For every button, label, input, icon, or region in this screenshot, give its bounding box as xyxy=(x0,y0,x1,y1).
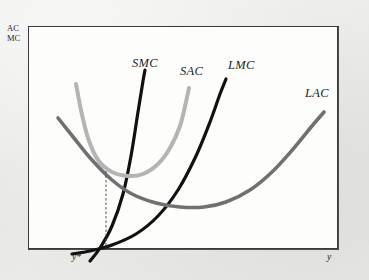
horizontal-axis-label: y xyxy=(327,252,331,262)
cost-curves-plot xyxy=(0,0,369,280)
curve-label-lmc: LMC xyxy=(228,58,255,73)
curve-lmc xyxy=(72,79,226,254)
curve-label-sac: SAC xyxy=(180,64,203,79)
curve-label-lac: LAC xyxy=(305,86,329,101)
figure-container: AC MC SMC SAC LMC LAC y* y xyxy=(0,0,369,280)
y-star-axis-label: y* xyxy=(72,252,81,262)
curve-label-smc: SMC xyxy=(132,56,158,71)
curve-group xyxy=(58,70,324,261)
